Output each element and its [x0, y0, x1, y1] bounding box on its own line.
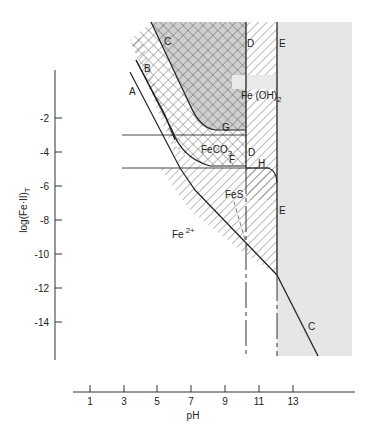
y-tick-label: -12 [35, 283, 50, 294]
y-tick-label: -4 [40, 147, 49, 158]
y-axis-label: log(Fe·II)T [18, 187, 32, 233]
fes-hatch-region [160, 168, 277, 275]
label-c-top: C [164, 36, 171, 47]
label-fe2: Fe2+ [172, 226, 195, 240]
label-d-top: D [247, 38, 254, 49]
x-tick-label: 9 [222, 396, 228, 407]
x-tick-label: 13 [287, 396, 299, 407]
x-tick-label: 5 [154, 396, 160, 407]
label-h: H [258, 158, 265, 169]
label-a: A [129, 86, 136, 97]
label-d-mid: D [248, 147, 255, 158]
y-tick-label: -2 [40, 113, 49, 124]
label-e-top: E [279, 38, 286, 49]
x-axis-label: pH [187, 410, 200, 421]
x-tick-label: 1 [87, 396, 93, 407]
label-fes: FeS [225, 189, 244, 200]
x-tick-label: 7 [188, 396, 194, 407]
label-c-bottom: C [308, 321, 315, 332]
y-tick-label: -8 [40, 215, 49, 226]
label-g: G [222, 122, 230, 133]
y-ticks [55, 118, 62, 322]
x-tick-label: 3 [121, 396, 127, 407]
iron-stability-diagram: -2 -4 -6 -8 -10 -12 -14 1 3 5 7 9 11 13 … [0, 0, 370, 431]
feco3-crosshatch-region [130, 22, 246, 165]
y-tick-label: -10 [35, 249, 50, 260]
oxidized-region [277, 22, 352, 356]
label-b: B [144, 63, 151, 74]
label-e-mid: E [279, 205, 286, 216]
x-tick-label: 11 [254, 396, 265, 407]
x-ticks [90, 385, 293, 392]
y-tick-label: -14 [35, 317, 50, 328]
y-tick-label: -6 [40, 181, 49, 192]
